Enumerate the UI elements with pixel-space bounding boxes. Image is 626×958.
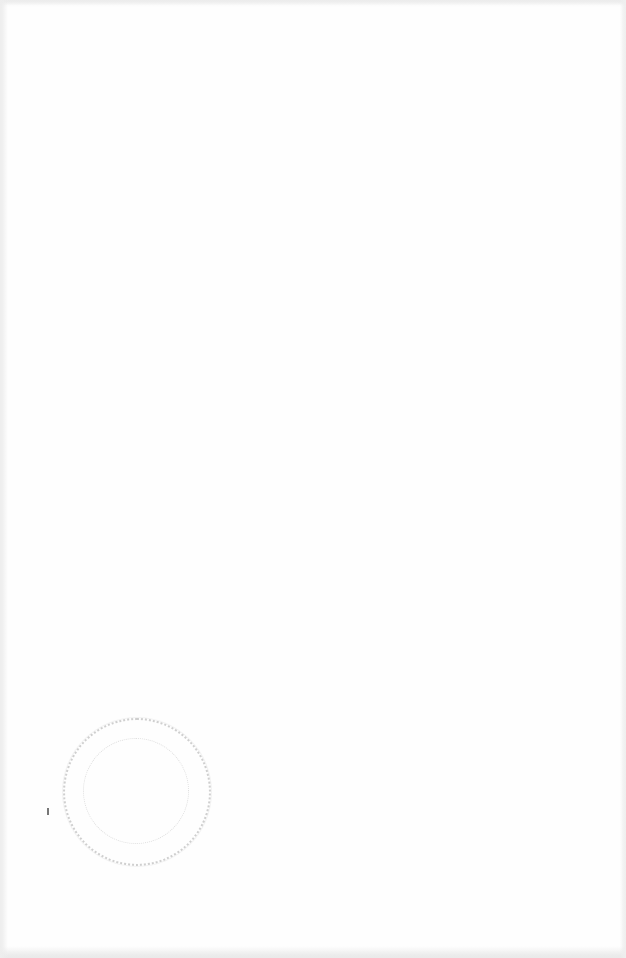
page-edge-bottom (0, 946, 626, 958)
stamp-inner-ring (83, 738, 189, 844)
page-edge-left (0, 0, 8, 958)
page-edge-right (620, 0, 626, 958)
circular-stamp (63, 718, 211, 866)
page-edge-top (0, 0, 626, 6)
scanned-page (0, 0, 626, 958)
ink-speck (47, 808, 49, 815)
